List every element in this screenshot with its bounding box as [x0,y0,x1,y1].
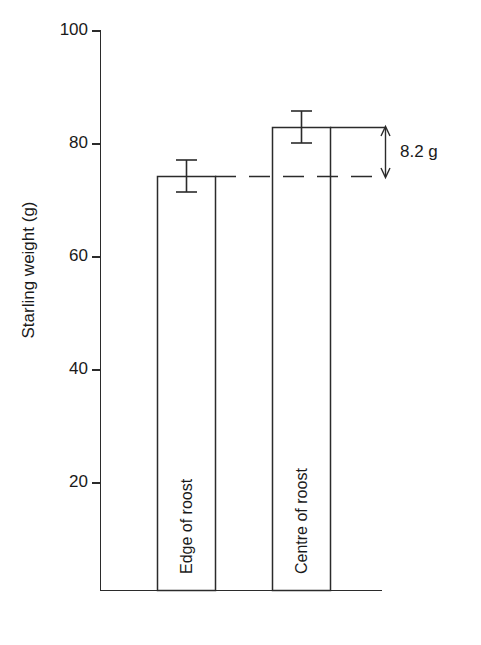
difference-annotation-label: 8.2 g [400,142,438,161]
y-tick-label-60: 60 [69,246,88,265]
axis-group [101,31,383,591]
y-tick-label-20: 20 [69,472,88,491]
y-tick-label-80: 80 [69,133,88,152]
y-axis-ticks [92,31,101,483]
y-tick-label-40: 40 [69,359,88,378]
chart-canvas: 100 80 60 40 20 Starling weight (g) Edge… [0,0,481,645]
bar-group-edge-of-roost: Edge of roost [158,160,216,591]
bar-label-centre-of-roost: Centre of roost [293,468,310,574]
chart-figure: 100 80 60 40 20 Starling weight (g) Edge… [0,0,481,645]
y-axis-tick-labels: 100 80 60 40 20 [60,20,88,491]
y-axis-title-group: Starling weight (g) [19,201,38,338]
difference-annotation-group: 8.2 g [330,127,438,178]
y-tick-label-100: 100 [60,20,88,39]
bar-group-centre-of-roost: Centre of roost [273,111,331,591]
y-axis-title: Starling weight (g) [19,201,38,338]
bar-label-edge-of-roost: Edge of roost [178,478,195,574]
